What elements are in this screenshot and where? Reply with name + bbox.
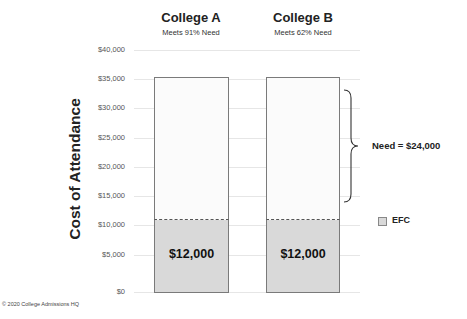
y-tick: $0 xyxy=(75,287,125,296)
need-segment-college-b xyxy=(266,77,340,220)
efc-value-college-a: $12,000 xyxy=(154,247,229,261)
legend-efc-swatch xyxy=(378,217,387,226)
college-a-title: College A xyxy=(131,10,251,25)
college-b-title: College B xyxy=(243,10,363,25)
y-tick: $30,000 xyxy=(75,103,125,112)
efc-value-college-b: $12,000 xyxy=(266,247,340,261)
need-annotation: Need = $24,000 xyxy=(372,140,440,151)
y-tick: $5,000 xyxy=(75,250,125,259)
y-tick: $15,000 xyxy=(75,191,125,200)
curly-brace-icon xyxy=(342,88,366,204)
y-tick: $20,000 xyxy=(75,162,125,171)
legend-efc-label: EFC xyxy=(392,215,410,225)
college-b-subtitle: Meets 62% Need xyxy=(243,28,363,37)
y-tick: $35,000 xyxy=(75,74,125,83)
college-a-subtitle: Meets 91% Need xyxy=(131,28,251,37)
y-tick: $10,000 xyxy=(75,220,125,229)
copyright-notice: © 2020 College Admissions HQ xyxy=(2,301,79,307)
y-tick: $25,000 xyxy=(75,133,125,142)
gridline xyxy=(134,50,360,51)
y-tick: $40,000 xyxy=(75,45,125,54)
need-segment-college-a xyxy=(154,77,229,220)
